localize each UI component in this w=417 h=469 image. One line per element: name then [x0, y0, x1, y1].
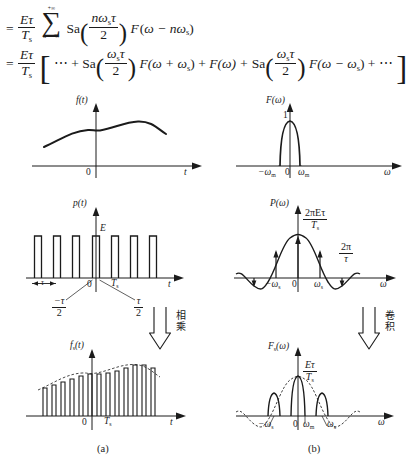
- panel-pt: p(t) t E 0 Ts τ −τ2 τ2: [16, 200, 212, 308]
- panel-Pw-tick-right: ωs: [314, 280, 323, 291]
- panel-ft-y-label: f(t): [76, 96, 88, 106]
- panel-Fsw-x-label: ω: [378, 418, 385, 428]
- panel-pt-origin: 0: [87, 280, 92, 290]
- panel-Fw-x-label: ω: [384, 168, 391, 178]
- panel-Fw-origin: 0: [285, 168, 290, 178]
- eq1-paren-close: ): [119, 21, 127, 46]
- eq1-sigma-bottom: n = −∞: [41, 34, 61, 39]
- eq2-equals: =: [6, 56, 14, 71]
- convolve-char-1: 卷: [385, 311, 395, 322]
- panel-ft-origin: 0: [86, 168, 91, 178]
- caption-a: (a): [97, 443, 109, 454]
- panel-ft: f(t) t 0: [24, 98, 210, 188]
- panel-pt-width-label: τ: [41, 279, 44, 287]
- convolve-arrow-label: 卷 积: [385, 311, 395, 332]
- panel-Pw-lobe-label: 2πτ: [338, 242, 354, 265]
- eq2-paren1-open: (: [96, 56, 104, 81]
- panel-pt-plot: [16, 200, 212, 308]
- eq2-term3: F(ω − ω: [309, 56, 357, 71]
- eq1-sa-arg-num-tail: τ: [111, 10, 116, 25]
- eq1-prefactor: EτTs: [18, 13, 35, 44]
- eq1-prefactor-den: T: [21, 27, 29, 42]
- eq2-term1-end: ) +: [190, 56, 205, 71]
- eq2-paren1-close: ): [128, 56, 136, 81]
- multiply-char-2: 乘: [176, 322, 186, 333]
- eq2-sa2-num-tail: τ: [289, 46, 294, 61]
- multiply-char-1: 相: [176, 311, 186, 322]
- panel-Fsw: Fs(ω) ω EτTs 0 −ωs ωm ωs: [232, 340, 417, 440]
- eq2-bracket-open: [: [39, 52, 50, 85]
- eq2-sa1-den: 2: [105, 64, 127, 79]
- panel-Fw-peak-label: 1: [283, 111, 288, 121]
- eq1-sa-arg-den: 2: [89, 28, 117, 43]
- caption-b: (b): [308, 443, 320, 454]
- panel-Fw-y-label: F(ω): [266, 96, 285, 106]
- panel-fst-y-label: fs(t): [70, 341, 84, 352]
- eq2-sa2-num: ω: [277, 46, 287, 61]
- eq2-prefactor-den-sub: s: [29, 70, 32, 79]
- eq2-term2: F(ω) +: [209, 56, 248, 71]
- eq2-sa1-arg: ωsτ2: [105, 47, 127, 78]
- panel-Fsw-tick-1: −ωs: [258, 420, 273, 431]
- panel-fst-origin: 0: [82, 418, 87, 428]
- panel-Pw-origin: 0: [292, 280, 297, 290]
- panel-Pw-peak-label: 2πEτTs: [302, 208, 328, 231]
- equation-line-2: = EτTs [ ⋯ + Sa(ωsτ2) F(ω + ωs) + F(ω) +…: [6, 47, 407, 86]
- panel-Pw-tick-left: −ωs: [265, 280, 280, 291]
- panel-Fsw-origin: 0: [293, 420, 298, 430]
- eq2-prefactor-num: Eτ: [18, 48, 35, 64]
- eq1-summation: +∞∑n = −∞: [41, 6, 61, 39]
- eq2-prefactor: EτTs: [18, 48, 35, 79]
- panel-Fw: F(ω) ω 1 0 −ωm ωm: [232, 98, 417, 188]
- eq2-sa-1: Sa: [82, 56, 96, 71]
- panel-fst: fs(t) t 0 Ts: [18, 340, 214, 440]
- eq2-paren2-open: (: [265, 56, 273, 81]
- eq2-sa1-num-tail: τ: [120, 46, 125, 61]
- sigma-icon: ∑: [41, 11, 61, 33]
- panel-Pw-y-label: P(ω): [270, 199, 289, 209]
- eq2-dots-left: ⋯ +: [54, 56, 79, 71]
- eq2-paren2-close: ): [297, 56, 305, 81]
- panel-Fw-tick-left: −ωm: [258, 168, 276, 179]
- figure-page: = EτTs +∞∑n = −∞ Sa(nωsτ2) F (ω − nωs) =…: [0, 0, 417, 469]
- panel-pt-left-edge-label: −τ2: [51, 296, 67, 319]
- eq1-sa-arg: nωsτ2: [89, 11, 117, 42]
- eq1-prefactor-num: Eτ: [18, 13, 35, 29]
- multiply-arrow-label: 相 乘: [176, 311, 186, 332]
- panel-fst-plot: [18, 340, 214, 440]
- eq2-sa-2: Sa: [252, 56, 266, 71]
- panel-Pw: P(ω) ω 2πEτTs 2πτ 0 −ωs ωs: [230, 200, 417, 308]
- panel-pt-right-edge-label: τ2: [133, 296, 144, 319]
- eq2-sa1-num: ω: [107, 46, 117, 61]
- panel-Fsw-tick-2: ωm: [303, 420, 314, 431]
- eq2-prefactor-den: T: [21, 63, 29, 78]
- panel-pt-x-label: t: [168, 280, 171, 290]
- panel-Pw-x-label: ω: [380, 280, 387, 290]
- panel-fst-x-label: t: [170, 418, 173, 428]
- eq1-F: F: [130, 21, 138, 36]
- panel-pt-amplitude-label: E: [100, 224, 106, 234]
- eq2-term1: F(ω + ω: [139, 56, 187, 71]
- panel-Fsw-tick-3: ωs: [327, 420, 336, 431]
- eq2-bracket-close: ]: [396, 52, 407, 85]
- panel-pt-y-label: p(t): [73, 199, 87, 209]
- panel-Fsw-y-label: Fs(ω): [268, 342, 289, 353]
- eq1-F-arg: ω − nω: [144, 21, 186, 36]
- eq1-prefactor-den-sub: s: [29, 35, 32, 44]
- panel-pt-period-label: Ts: [111, 279, 119, 290]
- eq1-paren-open: (: [80, 21, 88, 46]
- panel-ft-plot: [24, 98, 210, 188]
- eq2-term3-end: ) + ⋯: [360, 56, 393, 71]
- panel-ft-x-label: t: [184, 168, 187, 178]
- eq2-sa2-arg: ωsτ2: [275, 47, 297, 78]
- panel-Fw-tick-right: ωm: [298, 168, 309, 179]
- panel-fst-period-label: Ts: [104, 417, 112, 428]
- eq2-sa2-den: 2: [275, 64, 297, 79]
- panel-Fsw-peak-label: EτTs: [302, 360, 318, 383]
- equation-line-1: = EτTs +∞∑n = −∞ Sa(nωsτ2) F (ω − nωs): [6, 6, 194, 46]
- eq1-sa-arg-num: nω: [91, 10, 107, 25]
- convolve-char-2: 积: [385, 322, 395, 333]
- eq1-sa: Sa: [67, 21, 81, 36]
- eq1-equals: =: [6, 21, 14, 36]
